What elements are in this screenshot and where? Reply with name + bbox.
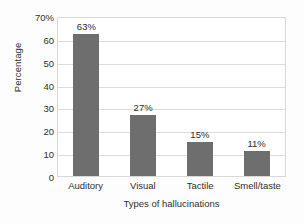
y-tick-label-70: 70%: [20, 12, 54, 23]
y-tick-label-0: 0: [20, 172, 54, 183]
bar-auditory[interactable]: [73, 34, 99, 176]
y-tick-label-60: 60: [20, 34, 54, 45]
bar-slot-auditory: 63%: [58, 18, 115, 176]
bar-value-visual: 27%: [134, 102, 153, 113]
bar-visual[interactable]: [130, 115, 156, 176]
x-tick-label-visual: Visual: [114, 180, 171, 191]
plot-area: 63% 27% 15% 11%: [57, 17, 286, 177]
x-tick-label-tactile: Tactile: [172, 180, 229, 191]
bar-chart: Percentage 0 10 20 30 40 50 60 70% 63% 2…: [0, 0, 304, 224]
y-tick-label-10: 10: [20, 149, 54, 160]
bar-smell-taste[interactable]: [244, 151, 270, 176]
bar-value-tactile: 15%: [190, 129, 209, 140]
bars-layer: 63% 27% 15% 11%: [58, 18, 285, 176]
bar-value-smell-taste: 11%: [247, 138, 265, 149]
x-tick-label-smell-taste: Smell/taste: [229, 180, 286, 191]
y-tick-label-20: 20: [20, 126, 54, 137]
x-axis-tick-labels: Auditory Visual Tactile Smell/taste: [57, 180, 286, 191]
y-tick-label-40: 40: [20, 80, 54, 91]
y-axis-tick-labels: 0 10 20 30 40 50 60 70%: [20, 17, 54, 177]
bar-tactile[interactable]: [187, 142, 213, 176]
bar-slot-tactile: 15%: [172, 18, 229, 176]
x-axis-title: Types of hallucinations: [57, 198, 286, 209]
bar-slot-smell-taste: 11%: [228, 18, 285, 176]
y-tick-label-30: 30: [20, 103, 54, 114]
bar-slot-visual: 27%: [115, 18, 172, 176]
x-tick-label-auditory: Auditory: [57, 180, 114, 191]
y-tick-label-50: 50: [20, 57, 54, 68]
bar-value-auditory: 63%: [77, 21, 96, 32]
